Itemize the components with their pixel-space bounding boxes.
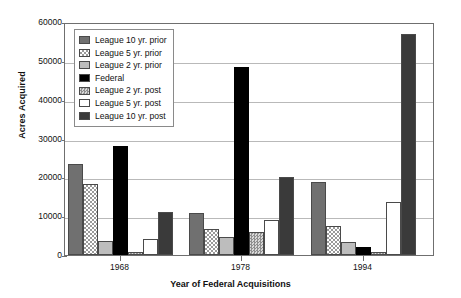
bar: [341, 242, 356, 255]
bar: [386, 202, 401, 255]
legend-label: League 5 yr. post: [95, 99, 161, 108]
bar: [83, 184, 98, 255]
y-tick-label: 40000: [0, 95, 70, 105]
x-tick-label: 1978: [211, 262, 271, 272]
bar: [68, 164, 83, 255]
legend-swatch-icon: [79, 87, 90, 95]
x-axis-title: Year of Federal Acquisitions: [0, 279, 461, 289]
bar: [189, 213, 204, 255]
legend-label: League 10 yr. prior: [95, 36, 167, 45]
y-axis-ticks: 0100002000030000400005000060000: [0, 0, 62, 298]
bar: [279, 177, 294, 255]
bar: [158, 212, 173, 255]
x-tick-mark: [120, 256, 121, 261]
bar: [128, 252, 143, 255]
chart-legend: League 10 yr. priorLeague 5 yr. priorLea…: [74, 29, 174, 127]
bar: [234, 67, 249, 255]
bar-group-1978: [189, 24, 294, 255]
legend-item: League 2 yr. prior: [79, 59, 167, 72]
bar: [264, 220, 279, 255]
x-tick-mark: [363, 256, 364, 261]
y-tick-mark: [62, 256, 67, 257]
bar: [143, 239, 158, 255]
legend-label: League 10 yr. post: [95, 112, 166, 121]
y-tick-label: 60000: [0, 17, 70, 27]
legend-swatch-icon: [79, 49, 90, 57]
bar: [311, 182, 326, 255]
x-tick-label: 1994: [333, 262, 393, 272]
x-tick-mark: [241, 256, 242, 261]
y-tick-label: 20000: [0, 172, 70, 182]
legend-label: Federal: [95, 74, 124, 83]
chart-canvas: Acres Acquired 0100002000030000400005000…: [0, 0, 461, 298]
bar: [371, 252, 386, 255]
bar: [113, 146, 128, 255]
legend-item: League 5 yr. prior: [79, 47, 167, 60]
bar: [326, 226, 341, 255]
legend-item: League 10 yr. post: [79, 110, 167, 123]
legend-swatch-icon: [79, 112, 90, 120]
bar: [401, 34, 416, 255]
x-tick-label: 1968: [90, 262, 150, 272]
y-tick-label: 50000: [0, 56, 70, 66]
legend-swatch-icon: [79, 74, 90, 82]
bar: [356, 247, 371, 255]
bar: [219, 237, 234, 255]
y-tick-label: 10000: [0, 211, 70, 221]
y-tick-label: 30000: [0, 134, 70, 144]
legend-swatch-icon: [79, 99, 90, 107]
bar: [249, 232, 264, 255]
legend-label: League 2 yr. post: [95, 86, 161, 95]
legend-item: League 10 yr. prior: [79, 34, 167, 47]
bar: [98, 241, 113, 255]
legend-item: League 5 yr. post: [79, 97, 167, 110]
bar: [204, 229, 219, 255]
legend-swatch-icon: [79, 61, 90, 69]
y-tick-label: 0: [0, 250, 70, 260]
legend-label: League 2 yr. prior: [95, 61, 162, 70]
legend-item: Federal: [79, 72, 167, 85]
legend-item: League 2 yr. post: [79, 84, 167, 97]
legend-swatch-icon: [79, 36, 90, 44]
bar-group-1994: [311, 24, 416, 255]
legend-label: League 5 yr. prior: [95, 49, 162, 58]
